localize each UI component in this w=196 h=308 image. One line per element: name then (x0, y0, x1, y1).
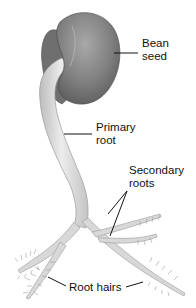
label-root-hairs: Root hairs (69, 281, 121, 294)
leader-root-hairs-right (126, 282, 143, 287)
label-bean-seed: Bean seed (142, 37, 169, 63)
leader-root-hairs-left (48, 277, 66, 286)
label-primary-root: Primary root (96, 121, 136, 147)
bean-germination-diagram: Bean seed Primary root Secondary roots R… (0, 0, 196, 308)
bean-seed (57, 13, 120, 104)
leader-secondary-1 (108, 191, 127, 214)
label-secondary-roots: Secondary roots (129, 164, 184, 190)
